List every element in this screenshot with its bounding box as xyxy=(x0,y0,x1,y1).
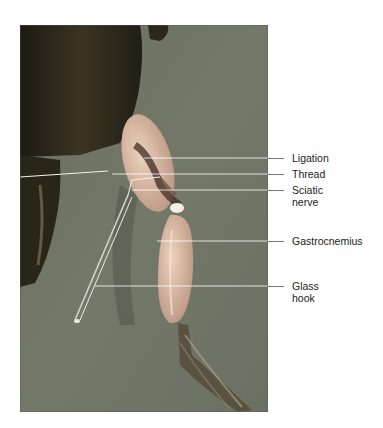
label-thread: Thread xyxy=(292,168,325,180)
leader-glass-hook xyxy=(268,286,284,287)
label-sciatic-nerve: Sciatic nerve xyxy=(292,184,323,208)
label-gastrocnemius: Gastrocnemius xyxy=(292,235,363,247)
label-glass-line1: Glass xyxy=(292,280,319,292)
label-ligation: Ligation xyxy=(292,152,329,164)
label-glass-line2: hook xyxy=(292,292,319,304)
label-glass-hook: Glass hook xyxy=(292,280,319,304)
label-sciatic-line1: Sciatic xyxy=(292,184,323,196)
leader-sciatic-nerve xyxy=(268,190,284,191)
dissection-photo xyxy=(20,25,268,412)
leader-ligation xyxy=(268,158,284,159)
leader-thread xyxy=(268,174,284,175)
leader-gastrocnemius xyxy=(268,241,284,242)
label-sciatic-line2: nerve xyxy=(292,196,323,208)
